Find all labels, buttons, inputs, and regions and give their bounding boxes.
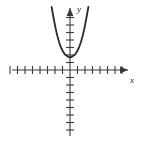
y-axis-label: y (76, 4, 81, 14)
y-axis-arrow-icon (67, 8, 74, 16)
coordinate-plane-svg: y x (0, 0, 141, 142)
x-axis-arrow-icon (120, 67, 128, 74)
x-axis-label: x (129, 75, 134, 85)
parabola-figure: y x (0, 0, 141, 142)
